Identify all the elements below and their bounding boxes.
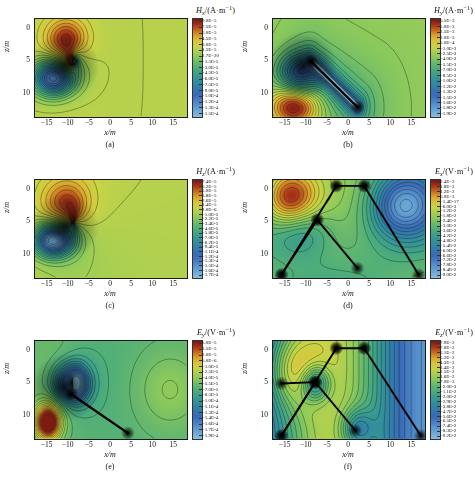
colorbar-tickmark (199, 343, 202, 344)
colorbar-tickmark (437, 240, 440, 241)
colorbar-tickmark (437, 92, 440, 93)
xtick-e--5: −5 (78, 440, 100, 449)
colorbar-tick-a-4: 3.0E−5 (202, 42, 217, 47)
xtick-a-5: 5 (120, 118, 142, 127)
colorbar-tickmark (199, 200, 202, 201)
panel-caption-e: (e) (34, 462, 186, 471)
colorbar-tickmark (437, 226, 440, 227)
panel-caption-d: (d) (272, 301, 424, 310)
xtick-a--10: −10 (57, 118, 79, 127)
colorbar-tickmark (199, 38, 202, 39)
colorbar-tickmark (199, 84, 202, 85)
y-axis-label-b: z/m (240, 41, 249, 52)
xtick-f-15: 15 (400, 440, 422, 449)
colorbar-tickmark (437, 37, 440, 38)
colorbar-tick-e-1: 3.5E−5 (202, 346, 217, 351)
colorbar-tickmark (437, 196, 440, 197)
colorbar-tick-b-12: −1.2E-2 (440, 84, 456, 89)
colorbar-tickmark (437, 48, 440, 49)
field-map-c (35, 180, 187, 278)
colorbar-tick-c-20: −1.7E-4 (202, 272, 218, 277)
colorbar-tickmark (199, 181, 202, 182)
xtick-d--10: −10 (295, 279, 317, 288)
colorbar-tickmark (199, 275, 202, 276)
colorbar-tickmark (437, 108, 440, 109)
colorbar-tickmark (437, 235, 440, 236)
colorbar-tickmark (437, 392, 440, 393)
colorbar-tickmark (437, 70, 440, 71)
ytick-c-5: 5 (16, 216, 30, 225)
colorbar-tickmark (199, 372, 202, 373)
colorbar-tickmark (199, 219, 202, 220)
colorbar-tickmark (437, 191, 440, 192)
colorbar-tickmark (199, 233, 202, 234)
xtick-a-15: 15 (162, 118, 184, 127)
xtick-d-0: 0 (337, 279, 359, 288)
xtick-b--10: −10 (295, 118, 317, 127)
colorbar-tickmark (199, 395, 202, 396)
panel-a: Hx/(A·m−1)0510−15−10−5051015z/mx/m(a)9.0… (0, 0, 237, 162)
xtick-f--10: −10 (295, 440, 317, 449)
plot-area-a (34, 18, 188, 118)
x-axis-label-d: x/m (272, 289, 424, 298)
colorbar-tickmark (199, 56, 202, 57)
colorbar-tickmark (199, 79, 202, 80)
colorbar-tickmark (437, 21, 440, 22)
colorbar-tickmark (199, 424, 202, 425)
colorbar-tickmark (199, 401, 202, 402)
colorbar-tick-b-5: −1.0E-3 (440, 46, 456, 51)
colorbar-tickmark (437, 377, 440, 378)
colorbar-tickmark (199, 383, 202, 384)
xtick-e-10: 10 (141, 440, 163, 449)
colorbar-tick-e-14: −1.6E-4 (202, 421, 218, 426)
xtick-c--5: −5 (78, 279, 100, 288)
colorbar-tickmark (199, 102, 202, 103)
colorbar-tickmark (199, 186, 202, 187)
colorbar-tickmark (437, 343, 440, 344)
colorbar-tickmark (437, 43, 440, 44)
xtick-a--5: −5 (78, 118, 100, 127)
colorbar-labels-d: 2.4E−21.8E−21.2E−26.0E−3−1.4E-17−6.0E-3−… (440, 176, 474, 280)
colorbar-tickmark (199, 349, 202, 350)
colorbar-tick-e-12: −1.3E-4 (202, 410, 218, 415)
colorbar-tickmark (199, 247, 202, 248)
xtick-d-10: 10 (379, 279, 401, 288)
colorbar-tickmark (437, 372, 440, 373)
ytick-f-5: 5 (254, 377, 268, 386)
colorbar-tickmark (437, 411, 440, 412)
panel-d: Ex/(V·m−1)0510−15−10−5051015z/mx/m(d)2.4… (238, 161, 475, 323)
y-axis-label-c: z/m (2, 202, 11, 213)
plot-area-b (272, 18, 426, 118)
x-axis-label-f: x/m (272, 450, 424, 459)
colorbar-tickmark (199, 251, 202, 252)
x-axis-label-c: x/m (34, 289, 186, 298)
colorbar-tickmark (437, 362, 440, 363)
xtick-c-5: 5 (120, 279, 142, 288)
colorbar-tickmark (437, 32, 440, 33)
colorbar-tick-b-1: 5.0E−3 (440, 24, 455, 29)
colorbar-tickmark (199, 223, 202, 224)
colorbar-tickmark (437, 186, 440, 187)
colorbar-tick-e-15: −1.7E-4 (202, 427, 218, 432)
colorbar-tick-e-13: −1.4E-4 (202, 415, 218, 420)
xtick-d-15: 15 (400, 279, 422, 288)
xtick-b--5: −5 (316, 118, 338, 127)
colorbar-tick-a-5: 1.5E−5 (202, 47, 217, 52)
y-axis-label-a: z/m (2, 41, 11, 52)
plot-area-d (272, 179, 426, 279)
colorbar-tickmark (199, 33, 202, 34)
xtick-b-0: 0 (337, 118, 359, 127)
xtick-a-10: 10 (141, 118, 163, 127)
colorbar-tickmark (199, 191, 202, 192)
xtick-c-10: 10 (141, 279, 163, 288)
x-axis-label-a: x/m (34, 128, 186, 137)
colorbar-tickmark (437, 53, 440, 54)
colorbar-tick-b-0: 6.5E−3 (440, 18, 455, 23)
xtick-b-15: 15 (400, 118, 422, 127)
colorbar-tick-b-15: −1.6E-2 (440, 100, 456, 105)
colorbar-tick-a-9: −4.5E-5 (202, 70, 218, 75)
colorbar-tick-e-9: −8.5E-5 (202, 392, 218, 397)
colorbar-tickmark (437, 206, 440, 207)
colorbar-tickmark (437, 86, 440, 87)
colorbar-tickmark (199, 67, 202, 68)
